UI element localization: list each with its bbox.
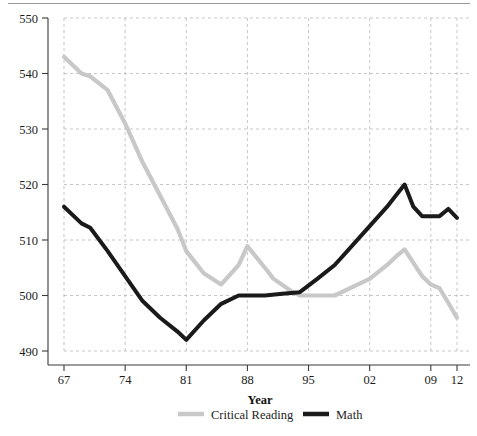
data-series-lines: [64, 57, 457, 340]
legend-label-critical-reading: Critical Reading: [211, 408, 294, 422]
x-axis-tick-label: 02: [363, 373, 376, 387]
legend-label-math: Math: [336, 408, 363, 422]
x-axis-tick-label: 09: [425, 373, 438, 387]
x-axis-tick-label: 67: [58, 373, 71, 387]
y-axis-tick-labels: 550540530520510500490: [19, 12, 38, 359]
chart-container: 550540530520510500490 6774818895020912 Y…: [0, 0, 477, 436]
x-axis-tick-labels: 6774818895020912: [58, 373, 464, 387]
line-chart-svg: 550540530520510500490 6774818895020912 Y…: [0, 0, 477, 436]
x-axis-title-label: Year: [248, 393, 273, 407]
series-line-critical-reading: [64, 57, 457, 318]
grid-lines: [64, 18, 470, 351]
x-axis-tick-label: 81: [180, 373, 193, 387]
y-axis-tick-label: 520: [19, 178, 38, 192]
x-axis-tick-label: 88: [241, 373, 254, 387]
x-axis-tick-label: 95: [302, 373, 315, 387]
x-axis-tick-label: 12: [451, 373, 464, 387]
chart-legend: Critical ReadingMath: [178, 408, 363, 422]
x-axis-title: Year: [248, 393, 273, 407]
y-axis-tick-label: 550: [19, 12, 38, 26]
y-axis-tick-label: 540: [19, 67, 38, 81]
y-axis-tick-label: 530: [19, 123, 38, 137]
y-axis-tick-label: 500: [19, 289, 38, 303]
axes: [42, 18, 470, 371]
x-axis-tick-label: 74: [119, 373, 132, 387]
y-axis-tick-label: 510: [19, 234, 38, 248]
y-axis-tick-label: 490: [19, 345, 38, 359]
